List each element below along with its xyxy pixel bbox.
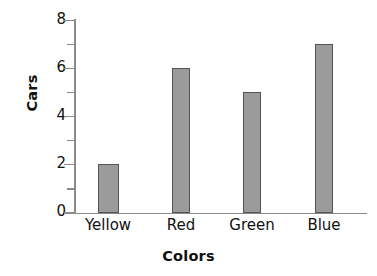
- y-tick-label-8: 8: [8, 12, 66, 27]
- x-tick-label-blue: Blue: [307, 216, 340, 234]
- y-tick-label-6: 6: [8, 60, 66, 75]
- y-tick-label-2: 2: [8, 156, 66, 171]
- y-tick-minor-1: [67, 188, 74, 189]
- x-axis-title: Colors: [0, 248, 377, 264]
- y-tick-minor-5: [67, 92, 74, 93]
- y-tick-major-4: [64, 116, 74, 117]
- y-tick-major-2: [64, 164, 74, 165]
- y-tick-label-4: 4: [8, 108, 66, 123]
- y-tick-major-6: [64, 68, 74, 69]
- y-tick-label-0: 0: [8, 204, 66, 219]
- y-tick-minor-7: [67, 44, 74, 45]
- y-tick-minor-3: [67, 140, 74, 141]
- x-tick-label-yellow: Yellow: [85, 216, 131, 234]
- bar-green: [243, 92, 261, 212]
- y-axis-labels: 8 6 4 2 0: [0, 0, 66, 276]
- bar-blue: [315, 44, 333, 212]
- y-tick-major-8: [64, 20, 74, 21]
- bar-red: [172, 68, 190, 212]
- x-tick-label-green: Green: [229, 216, 274, 234]
- x-axis-labels: Yellow Red Green Blue: [74, 216, 367, 242]
- bar-yellow: [98, 164, 119, 212]
- y-tick-major-0: [64, 212, 74, 213]
- bar-chart: Cars 8 6 4 2 0 Yellow Red Green Blue Col…: [0, 0, 377, 276]
- x-axis-line: [74, 213, 367, 215]
- bars-container: [74, 20, 367, 213]
- x-tick-label-red: Red: [167, 216, 196, 234]
